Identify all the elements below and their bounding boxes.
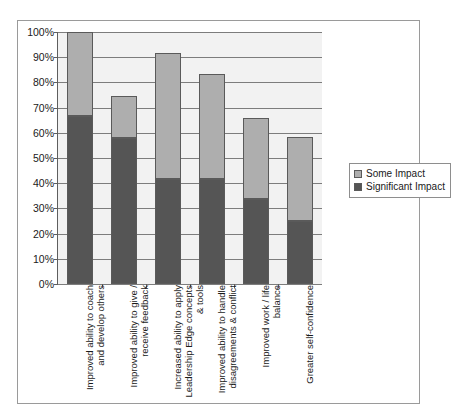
gridline [58,158,322,159]
legend-swatch-icon [354,183,362,191]
gridline [58,208,322,209]
bar-column [243,118,269,284]
legend-item-label: Significant Impact [366,180,445,193]
y-axis-tick-label: 90% [33,52,54,63]
x-axis-category-label-text: Greater self-confidence [304,285,315,403]
bar-column [155,53,181,284]
x-axis-category-label: Greater self-confidence [304,285,315,403]
y-axis-tick-mark [54,32,58,33]
y-axis-tick-mark [54,208,58,209]
x-axis-category-label-text: Increased ability to apply Leadership Ed… [172,285,205,403]
gridline [58,234,322,235]
y-axis-tick-mark [54,108,58,109]
bar-column [111,96,137,284]
bar-segment-significant-impact [155,179,181,284]
gridline [58,57,322,58]
y-axis-tick-mark [54,259,58,260]
x-axis-category-label-text: Improved work / life balance [260,285,282,403]
bar-segment-some-impact [199,74,225,179]
bar-segment-some-impact [111,96,137,138]
bar-segment-some-impact [287,137,313,221]
bar-segment-some-impact [243,118,269,199]
y-axis-tick-label: 10% [33,254,54,265]
gridline [58,32,322,33]
y-axis-tick-label: 30% [33,203,54,214]
bar-segment-significant-impact [67,116,93,284]
x-axis-category-label-text: Improved ability to give / receive feedb… [128,285,150,403]
x-axis-category-label: Improved work / life balance [260,285,282,403]
gridline [58,82,322,83]
bar-column [199,74,225,284]
y-axis-tick-label: 20% [33,228,54,239]
bar-segment-significant-impact [111,138,137,284]
y-axis-tick-mark [54,82,58,83]
y-axis-tick-label: 50% [33,153,54,164]
x-axis-category-label: Improved ability to handle disagreements… [216,285,238,403]
x-axis-category-label: Improved ability to give / receive feedb… [128,285,150,403]
chart-frame: 100%90%80%70%60%50%40%30%20%10%0% Improv… [17,20,420,404]
y-axis-tick-label: 40% [33,178,54,189]
y-axis-tick-label: 0% [39,279,54,290]
bar-segment-significant-impact [287,221,313,284]
bar-segment-significant-impact [199,179,225,284]
x-axis-category-labels: Improved ability to coach and develop ot… [57,285,321,403]
bar-column [67,32,93,284]
x-axis-category-label-text: Improved ability to handle disagreements… [216,285,238,403]
y-axis-tick-label: 70% [33,102,54,113]
chart-legend: Some ImpactSignificant Impact [349,163,451,198]
gridline [58,183,322,184]
x-axis-category-label: Improved ability to coach and develop ot… [84,285,106,403]
gridline [58,259,322,260]
legend-swatch-icon [354,170,362,178]
legend-item: Some Impact [354,167,445,180]
legend-item: Significant Impact [354,180,445,193]
gridline [58,108,322,109]
bar-segment-significant-impact [243,199,269,284]
bar-segment-some-impact [67,32,93,116]
y-axis-tick-mark [54,158,58,159]
y-axis-tick-label: 80% [33,77,54,88]
y-axis-tick-mark [54,133,58,134]
y-axis-tick-label: 60% [33,128,54,139]
x-axis-category-label-text: Improved ability to coach and develop ot… [84,285,106,403]
y-axis-tick-mark [54,57,58,58]
x-axis-category-label: Increased ability to apply Leadership Ed… [172,285,205,403]
bar-column [287,137,313,284]
y-axis-tick-mark [54,183,58,184]
bar-segment-some-impact [155,53,181,179]
y-axis-tick-label: 100% [27,27,54,38]
plot-area: 100%90%80%70%60%50%40%30%20%10%0% [57,32,322,285]
y-axis-tick-mark [54,234,58,235]
gridline [58,133,322,134]
legend-item-label: Some Impact [366,167,425,180]
